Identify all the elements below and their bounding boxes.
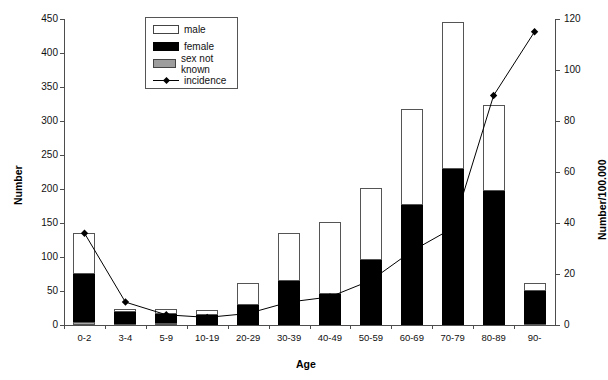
legend-swatch-male-icon [153,25,179,34]
legend-item-unknown[interactable]: sex not known [153,57,237,70]
incidence-marker [163,311,170,318]
legend-item-female[interactable]: female [153,40,214,53]
legend-label: male [184,24,206,35]
incidence-marker [204,314,211,321]
legend-label: incidence [184,75,226,86]
incidence-marker [81,230,88,237]
legend-item-line[interactable]: incidence [153,74,226,87]
incidence-marker [326,293,333,300]
incidence-marker [490,92,497,99]
legend-swatch-line-icon [153,76,179,85]
incidence-bar-chart: 050100150200250300350400450 020406080100… [0,0,608,380]
legend-label: female [184,41,214,52]
incidence-marker [367,277,374,284]
incidence-marker [449,224,456,231]
incidence-marker [244,310,251,317]
chart-legend: malefemalesex not knownincidence [145,17,238,89]
incidence-marker [285,298,292,305]
legend-swatch-female-icon [153,42,179,51]
incidence-marker [122,298,129,305]
legend-label: sex not known [181,53,237,75]
legend-item-male[interactable]: male [153,23,206,36]
incidence-line-layer [0,0,608,380]
legend-swatch-unknown-icon [153,59,176,68]
incidence-marker [408,247,415,254]
incidence-marker [531,28,538,35]
